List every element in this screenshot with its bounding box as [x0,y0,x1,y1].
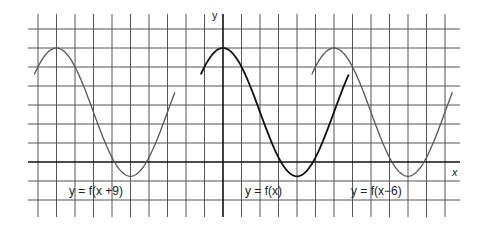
y-axis-label: y [212,9,218,21]
label-f-x-plus-9: y = f(x +9) [69,184,123,198]
label-f-x: y = f(x) [245,184,282,198]
label-f-x-minus-6: y = f(x−6) [351,184,402,198]
x-axis-label: x [452,166,458,178]
